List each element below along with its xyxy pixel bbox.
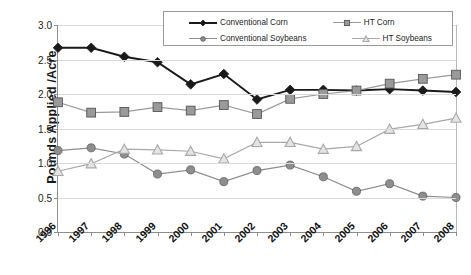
- data-point: [186, 106, 195, 115]
- x-tick-mark: [390, 232, 391, 236]
- data-point: [451, 113, 461, 122]
- data-point: [187, 166, 195, 174]
- data-point: [319, 173, 327, 181]
- legend-label: HT Corn: [364, 18, 395, 27]
- data-point: [352, 187, 360, 195]
- series-4: [53, 113, 461, 175]
- legend-label: Conventional Soybeans: [220, 34, 307, 43]
- legend-marker-triangle-icon: [351, 33, 381, 45]
- legend-marker-circle-icon: [188, 33, 218, 45]
- data-point: [153, 170, 161, 178]
- data-point: [87, 144, 95, 152]
- legend-item[interactable]: Conventional Corn: [188, 14, 288, 31]
- legend-marker-diamond-icon: [188, 17, 218, 29]
- x-tick-mark: [191, 232, 192, 236]
- data-point: [385, 79, 394, 88]
- data-point: [153, 103, 162, 112]
- y-tick-mark: [54, 198, 58, 199]
- legend-item[interactable]: HT Soybeans: [351, 30, 432, 47]
- x-tick-mark: [91, 232, 92, 236]
- legend-marker-square-icon: [332, 17, 362, 29]
- series-line: [58, 48, 456, 100]
- data-point: [87, 108, 96, 117]
- y-tick-mark: [54, 25, 58, 26]
- x-tick-mark: [158, 232, 159, 236]
- y-tick-label: 2.5: [26, 54, 52, 65]
- y-tick-label: 3.0: [26, 20, 52, 31]
- x-tick-mark: [357, 232, 358, 236]
- x-tick-mark: [224, 232, 225, 236]
- data-point: [418, 74, 427, 83]
- y-tick-mark: [54, 60, 58, 61]
- x-tick-mark: [423, 232, 424, 236]
- plot-area: [57, 25, 457, 233]
- data-point: [220, 178, 228, 186]
- x-tick-mark: [323, 232, 324, 236]
- x-tick-mark: [290, 232, 291, 236]
- legend-item[interactable]: HT Corn: [332, 14, 395, 31]
- y-tick-label: 0.5: [26, 192, 52, 203]
- gridline: [58, 163, 456, 164]
- data-point: [219, 101, 228, 110]
- y-tick-label: 1.0: [26, 158, 52, 169]
- legend-item[interactable]: Conventional Soybeans: [188, 30, 307, 47]
- y-tick-mark: [54, 163, 58, 164]
- y-tick-label: 1.5: [26, 123, 52, 134]
- x-tick-mark: [257, 232, 258, 236]
- series-3: [54, 144, 460, 202]
- data-point: [54, 98, 63, 107]
- data-point: [452, 70, 461, 79]
- y-tick-label: 2.0: [26, 89, 52, 100]
- legend: Conventional CornHT Corn Conventional So…: [163, 11, 453, 46]
- data-point: [253, 110, 262, 119]
- data-point: [351, 141, 361, 150]
- data-point: [451, 87, 461, 97]
- data-point: [120, 108, 129, 117]
- series-1: [53, 43, 461, 104]
- data-point: [86, 43, 96, 53]
- line-chart: Pounds Applied /Acre 0.00.51.01.52.02.53…: [0, 0, 471, 275]
- data-point: [54, 147, 62, 155]
- x-tick-mark: [456, 232, 457, 236]
- gridline: [58, 198, 456, 199]
- x-tick-mark: [124, 232, 125, 236]
- y-tick-mark: [54, 129, 58, 130]
- legend-label: HT Soybeans: [383, 34, 432, 43]
- gridline: [58, 129, 456, 130]
- data-point: [419, 192, 427, 200]
- gridline: [58, 60, 456, 61]
- x-tick-mark: [58, 232, 59, 236]
- data-point: [253, 167, 261, 175]
- legend-label: Conventional Corn: [220, 18, 288, 27]
- data-point: [286, 94, 295, 103]
- gridline: [58, 94, 456, 95]
- data-point: [386, 180, 394, 188]
- y-tick-mark: [54, 94, 58, 95]
